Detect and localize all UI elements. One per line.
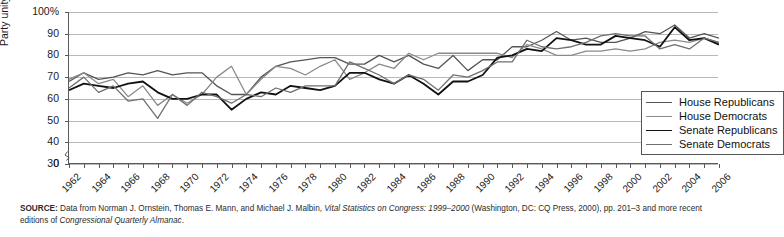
x-tick-mark xyxy=(483,164,484,168)
legend-label: House Democrats xyxy=(679,111,767,122)
x-tick-label: 1976 xyxy=(262,171,290,199)
x-tick-mark xyxy=(276,164,277,168)
legend-label: Senate Republicans xyxy=(679,125,777,136)
legend-swatch xyxy=(646,125,672,135)
x-tick-label: 1990 xyxy=(469,171,497,199)
x-tick-mark xyxy=(424,164,425,168)
source-prefix: SOURCE: xyxy=(20,204,58,213)
x-tick-mark xyxy=(128,164,129,168)
y-tick-label: 50 xyxy=(0,115,59,125)
legend-label: House Republicans xyxy=(679,97,774,108)
x-tick-label: 1988 xyxy=(439,171,467,199)
x-tick-mark xyxy=(350,164,351,168)
x-tick-mark xyxy=(291,164,292,168)
x-tick-mark xyxy=(571,164,572,168)
y-tick-label: 80 xyxy=(0,49,59,59)
x-tick-label: 1984 xyxy=(380,171,408,199)
x-tick-label: 2000 xyxy=(617,171,645,199)
x-tick-label: 2006 xyxy=(705,171,733,199)
y-tick-label: 100% xyxy=(0,6,59,16)
x-tick-label: 1982 xyxy=(351,171,379,199)
x-tick-label: 1962 xyxy=(55,171,83,199)
x-tick-mark xyxy=(586,164,587,168)
x-tick-label: 1970 xyxy=(173,171,201,199)
legend: House RepublicansHouse DemocratsSenate R… xyxy=(641,91,784,155)
x-tick-mark xyxy=(158,164,159,168)
x-tick-label: 1974 xyxy=(232,171,260,199)
legend-item: Senate Republicans xyxy=(646,123,777,137)
legend-item: House Republicans xyxy=(646,95,777,109)
x-tick-mark xyxy=(468,164,469,168)
x-tick-mark xyxy=(99,164,100,168)
x-tick-mark xyxy=(645,164,646,168)
x-tick-label: 1964 xyxy=(85,171,113,199)
x-tick-mark xyxy=(527,164,528,168)
legend-swatch xyxy=(646,139,672,149)
x-tick-label: 1980 xyxy=(321,171,349,199)
x-tick-label: 1986 xyxy=(410,171,438,199)
y-tick-label: 40 xyxy=(0,136,59,146)
source-text-1: Data from Norman J. Ornstein, Thomas E. … xyxy=(58,204,325,213)
x-tick-mark xyxy=(84,164,85,168)
y-tick-label: 70 xyxy=(0,71,59,81)
x-tick-mark xyxy=(217,164,218,168)
series-lines xyxy=(69,12,719,164)
x-tick-label: 1994 xyxy=(528,171,556,199)
x-tick-mark xyxy=(557,164,558,168)
x-tick-mark xyxy=(438,164,439,168)
y-tick-label: 60 xyxy=(0,93,59,103)
source-note: SOURCE: Data from Norman J. Ornstein, Th… xyxy=(20,203,726,226)
x-tick-mark xyxy=(689,164,690,168)
legend-item: House Democrats xyxy=(646,109,777,123)
x-tick-mark xyxy=(69,164,70,168)
chart-area: Party unity score 100%908070605040300 19… xyxy=(0,0,740,200)
x-tick-mark xyxy=(512,164,513,168)
x-tick-mark xyxy=(143,164,144,168)
source-text-3: . xyxy=(182,216,184,225)
x-tick-mark xyxy=(320,164,321,168)
x-tick-mark xyxy=(616,164,617,168)
x-tick-mark xyxy=(246,164,247,168)
x-tick-mark xyxy=(497,164,498,168)
x-tick-label: 1998 xyxy=(587,171,615,199)
x-tick-label: 2004 xyxy=(676,171,704,199)
source-italic-1: Vital Statistics on Congress: 1999–2000 xyxy=(324,204,469,213)
x-tick-mark xyxy=(453,164,454,168)
x-tick-mark xyxy=(335,164,336,168)
legend-swatch xyxy=(646,97,672,107)
x-tick-label: 1968 xyxy=(144,171,172,199)
legend-item: Senate Democrats xyxy=(646,137,777,151)
x-tick-mark xyxy=(601,164,602,168)
x-tick-mark xyxy=(675,164,676,168)
x-tick-mark xyxy=(364,164,365,168)
x-tick-label: 1992 xyxy=(498,171,526,199)
x-tick-mark xyxy=(704,164,705,168)
x-tick-label: 1972 xyxy=(203,171,231,199)
y-tick-label: 90 xyxy=(0,28,59,38)
x-tick-mark xyxy=(202,164,203,168)
x-tick-mark xyxy=(187,164,188,168)
plot-area: 100%908070605040300 19621964196619681970… xyxy=(68,12,718,164)
x-tick-mark xyxy=(660,164,661,168)
x-tick-mark xyxy=(719,164,720,168)
x-tick-label: 1966 xyxy=(114,171,142,199)
y-tick-label: 0 xyxy=(0,158,59,168)
x-tick-mark xyxy=(232,164,233,168)
x-tick-mark xyxy=(542,164,543,168)
x-tick-mark xyxy=(630,164,631,168)
x-tick-mark xyxy=(305,164,306,168)
legend-label: Senate Democrats xyxy=(679,139,770,150)
x-tick-mark xyxy=(172,164,173,168)
x-tick-mark xyxy=(394,164,395,168)
x-tick-mark xyxy=(379,164,380,168)
source-italic-2: Congressional Quarterly Almanac xyxy=(60,216,182,225)
x-tick-mark xyxy=(409,164,410,168)
x-tick-label: 1978 xyxy=(292,171,320,199)
series-line xyxy=(69,34,719,119)
x-tick-label: 1996 xyxy=(557,171,585,199)
x-tick-mark xyxy=(261,164,262,168)
x-tick-label: 2002 xyxy=(646,171,674,199)
legend-swatch xyxy=(646,111,672,121)
x-tick-mark xyxy=(113,164,114,168)
